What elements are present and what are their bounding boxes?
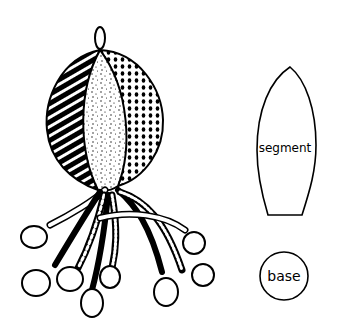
illustration: segment base [0, 0, 337, 336]
base-pattern-piece: base [260, 252, 308, 300]
segment-pattern-piece: segment [257, 67, 316, 215]
ball-toy [47, 27, 163, 191]
segment-label: segment [259, 141, 312, 155]
base-label: base [267, 268, 300, 284]
hanging-loop [95, 27, 105, 49]
